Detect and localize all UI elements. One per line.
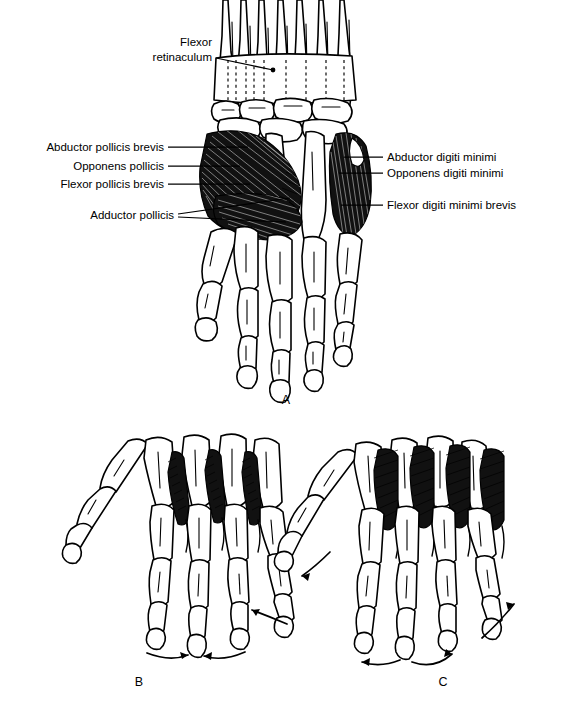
label-flexor-digiti-minimi-brevis-text: Flexor digiti minimi brevis: [387, 199, 516, 211]
hand-anatomy-figure: A Flexor retinaculum Abductor pollicis b…: [0, 0, 566, 705]
label-abductor-digiti-minimi-text: Abductor digiti minimi: [387, 151, 496, 163]
panel-b-letter: B: [135, 675, 143, 689]
label-adductor-pollicis-text: Adductor pollicis: [90, 209, 174, 221]
panel-a-letter: A: [282, 393, 291, 407]
label-flexor-pollicis-brevis-text: Flexor pollicis brevis: [60, 178, 164, 190]
thumb-tuft: [195, 318, 217, 341]
panel-c-letter: C: [438, 675, 447, 689]
label-abductor-pollicis-brevis-text: Abductor pollicis brevis: [46, 141, 164, 153]
leader-endpoint-flexor-retinaculum: [271, 68, 276, 73]
label-opponens-pollicis-text: Opponens pollicis: [73, 160, 164, 172]
hypothenar-muscle-group: [329, 133, 371, 236]
flexor-retinaculum-band: [214, 54, 356, 104]
label-opponens-digiti-minimi-text: Opponens digiti minimi: [387, 167, 503, 179]
metacarpal-4: [301, 132, 326, 241]
label-flexor-retinaculum-line-1: Flexor: [180, 36, 212, 48]
label-flexor-retinaculum-line-2: retinaculum: [153, 51, 212, 63]
